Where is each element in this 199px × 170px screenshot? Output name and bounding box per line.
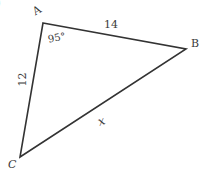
triangle-shape [0, 0, 199, 170]
side-label-ab: 14 [104, 19, 118, 30]
triangle-outline [20, 23, 186, 157]
vertex-label-b: B [191, 38, 199, 49]
triangle-diagram: ) A B C 14 12 x 95° [0, 0, 199, 170]
vertex-label-c: C [8, 159, 16, 170]
side-label-ac: 12 [17, 73, 28, 87]
